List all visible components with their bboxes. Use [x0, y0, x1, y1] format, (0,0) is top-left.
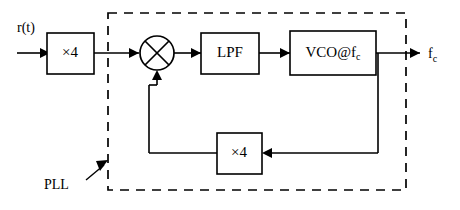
diagram-canvas: ×4 LPF VCO@fc ×4 r(t) fc PLL [0, 0, 460, 210]
pll-block-diagram: ×4 LPF VCO@fc ×4 r(t) fc PLL [0, 0, 460, 210]
output-signal-label-subscript: c [433, 53, 438, 64]
input-multiplier-label: ×4 [62, 44, 78, 60]
vco-label-subscript: c [356, 51, 361, 62]
lpf-label: LPF [217, 44, 243, 60]
vco-label-main: VCO@f [306, 44, 356, 60]
feedback-multiplier-label: ×4 [231, 144, 247, 160]
arrowhead-vco-input [280, 48, 290, 58]
arrowhead-feedback-multiplier-input [262, 148, 272, 158]
arrowhead-mixer-feedback-input [152, 70, 162, 80]
pll-boundary-label: PLL [44, 177, 69, 192]
output-signal-label: fc [428, 46, 438, 64]
arrowhead-lpf-input [191, 48, 201, 58]
arrowhead-output [410, 48, 420, 58]
vco-label: VCO@fc [306, 44, 361, 62]
input-signal-label: r(t) [17, 20, 35, 36]
arrowhead-mixer-input [129, 48, 139, 58]
